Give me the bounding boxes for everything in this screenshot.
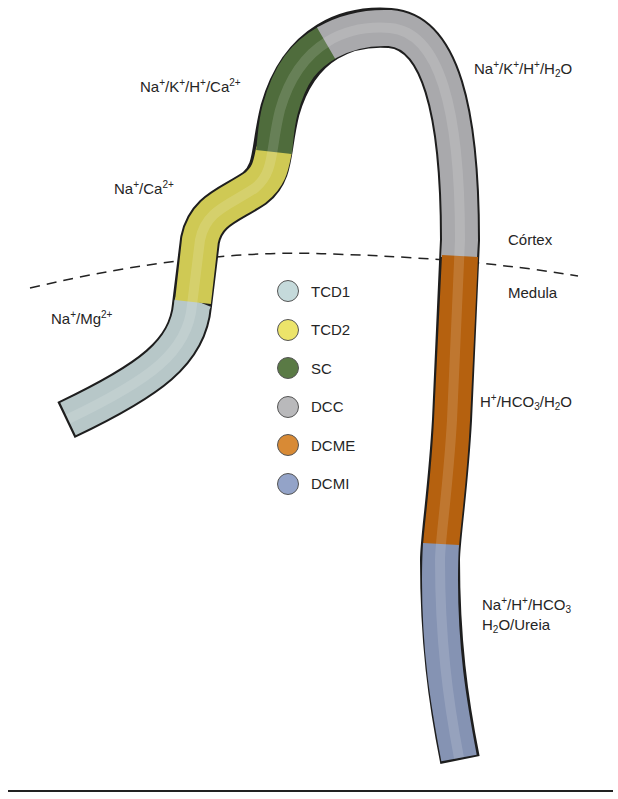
legend-item-sc: SC [277, 349, 355, 388]
swatch-tcd1-icon [277, 280, 299, 302]
swatch-tcd2-icon [277, 319, 299, 341]
label-dcc-transport: Na+/K+/H+/H2O [474, 60, 572, 78]
legend-label: DCMI [311, 475, 349, 492]
label-sc-transport: Na+/K+/H+/Ca2+ [140, 78, 241, 96]
legend-label: DCC [311, 398, 344, 415]
legend-label: SC [311, 360, 332, 377]
swatch-dcme-icon [277, 434, 299, 456]
label-cortex: Córtex [508, 231, 552, 249]
label-tcd1-transport: Na+/Mg2+ [51, 310, 112, 328]
swatch-sc-icon [277, 357, 299, 379]
legend-item-dcc: DCC [277, 388, 355, 427]
legend-label: DCME [311, 437, 355, 454]
legend-item-tcd1: TCD1 [277, 272, 355, 311]
label-tcd2-transport: Na+/Ca2+ [114, 180, 174, 198]
bottom-rule [8, 790, 613, 792]
label-medulla: Medula [508, 284, 557, 302]
legend-label: TCD2 [311, 321, 350, 338]
legend-label: TCD1 [311, 283, 350, 300]
legend: TCD1 TCD2 SC DCC DCME DCMI [277, 272, 355, 503]
label-dcmi-transport-line1: Na+/H+/HCO3 [482, 596, 571, 614]
legend-item-tcd2: TCD2 [277, 311, 355, 350]
label-dcmi-transport-line2: H2O/Ureia [482, 616, 550, 634]
swatch-dcmi-icon [277, 473, 299, 495]
swatch-dcc-icon [277, 396, 299, 418]
legend-item-dcme: DCME [277, 426, 355, 465]
legend-item-dcmi: DCMI [277, 465, 355, 504]
label-dcme-transport: H+/HCO3/H2O [480, 393, 572, 411]
